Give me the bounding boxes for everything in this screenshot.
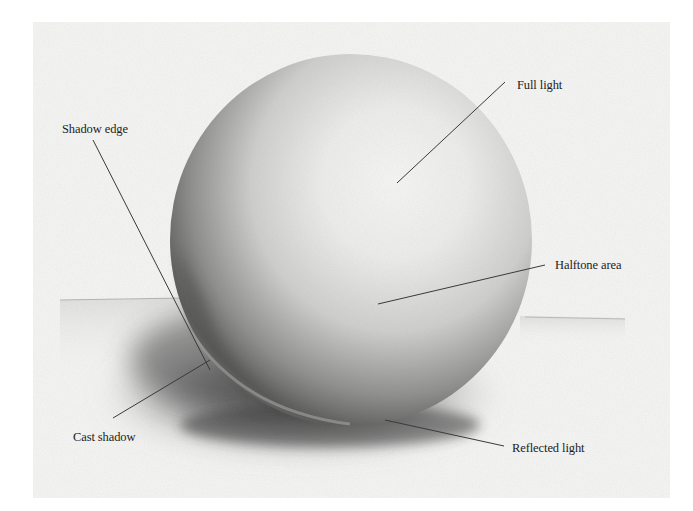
label-shadow-edge: Shadow edge xyxy=(62,123,128,136)
label-reflected-light: Reflected light xyxy=(512,442,584,455)
label-full-light: Full light xyxy=(517,79,562,92)
label-halftone-area: Halftone area xyxy=(555,259,621,272)
label-cast-shadow: Cast shadow xyxy=(73,431,135,444)
